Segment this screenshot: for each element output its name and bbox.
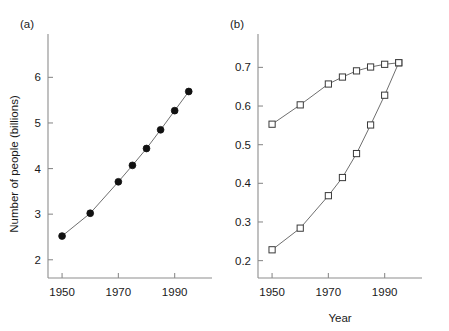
series-line-b-1	[272, 63, 399, 250]
panel-label-b: (b)	[230, 18, 244, 30]
data-point-a-0-4	[143, 145, 150, 152]
data-point-a-0-6	[171, 107, 178, 114]
data-point-b-0-3	[339, 74, 345, 80]
x-tick-label-a-0: 1950	[49, 286, 75, 298]
data-point-b-1-4	[353, 150, 359, 156]
data-point-a-0-0	[59, 233, 66, 240]
panel-a: (a)23456195019701990	[20, 18, 212, 298]
y-tick-label-b-1: 0.3	[235, 216, 251, 228]
x-tick-label-a-2: 1990	[162, 286, 188, 298]
data-point-b-0-5	[367, 64, 373, 70]
panel-b: (b)0.20.30.40.50.60.7195019701990	[230, 18, 422, 298]
data-point-a-0-7	[185, 88, 192, 95]
y-tick-label-a-2: 4	[35, 163, 42, 175]
y-tick-label-a-0: 2	[35, 254, 41, 266]
series-line-b-0	[272, 63, 399, 124]
data-point-b-1-5	[367, 122, 373, 128]
data-point-b-1-1	[297, 225, 303, 231]
y-tick-label-b-5: 0.7	[235, 61, 251, 73]
y-axis-title: Number of people (billions)	[8, 95, 20, 233]
y-tick-label-b-2: 0.4	[235, 177, 252, 189]
data-point-a-0-1	[87, 210, 94, 217]
figure-container: (a)23456195019701990(b)0.20.30.40.50.60.…	[0, 0, 449, 331]
data-point-b-1-0	[269, 247, 275, 253]
data-point-a-0-3	[129, 162, 136, 169]
data-point-b-0-1	[297, 102, 303, 108]
data-point-b-1-6	[382, 92, 388, 98]
data-point-b-0-4	[353, 68, 359, 74]
y-tick-label-b-4: 0.6	[235, 100, 251, 112]
x-tick-label-b-2: 1990	[372, 286, 398, 298]
panel-label-a: (a)	[20, 18, 34, 30]
data-point-a-0-2	[115, 178, 122, 185]
x-tick-label-b-1: 1970	[316, 286, 342, 298]
y-tick-label-a-1: 3	[35, 208, 41, 220]
data-point-a-0-5	[157, 126, 164, 133]
data-point-b-0-2	[325, 81, 331, 87]
data-point-b-0-6	[382, 61, 388, 67]
y-tick-label-a-3: 5	[35, 117, 41, 129]
data-point-b-1-7	[396, 60, 402, 66]
data-point-b-1-3	[339, 174, 345, 180]
x-axis-title: Year	[328, 312, 351, 324]
data-point-b-1-2	[325, 193, 331, 199]
x-tick-label-b-0: 1950	[259, 286, 285, 298]
y-tick-label-b-3: 0.5	[235, 139, 251, 151]
y-tick-label-a-4: 6	[35, 71, 41, 83]
data-point-b-0-0	[269, 121, 275, 127]
series-line-a-0	[62, 92, 189, 237]
figure-svg: (a)23456195019701990(b)0.20.30.40.50.60.…	[0, 0, 449, 331]
x-tick-label-a-1: 1970	[106, 286, 132, 298]
y-tick-label-b-0: 0.2	[235, 255, 251, 267]
